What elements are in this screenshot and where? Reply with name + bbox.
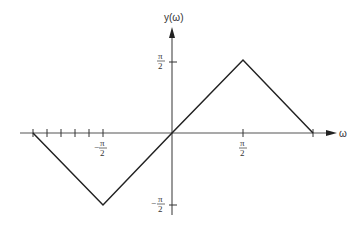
x-axis-arrow-icon xyxy=(326,130,337,136)
svg-text:−: − xyxy=(94,142,99,152)
svg-text:2: 2 xyxy=(100,148,105,158)
svg-text:−: − xyxy=(151,198,156,208)
svg-text:π: π xyxy=(158,51,163,61)
x-tick-label-pi-2: π 2 xyxy=(239,138,247,158)
svg-text:π: π xyxy=(158,194,163,204)
svg-text:2: 2 xyxy=(158,204,163,214)
y-tick-label-pi-2: π 2 xyxy=(157,51,165,71)
y-axis-arrow-icon xyxy=(169,27,175,38)
svg-text:π: π xyxy=(100,138,105,148)
svg-text:2: 2 xyxy=(158,61,163,71)
svg-text:2: 2 xyxy=(240,148,245,158)
y-tick-label-neg-pi-2: − π 2 xyxy=(151,194,165,214)
x-tick-label-neg-pi-2: − π 2 xyxy=(94,138,107,158)
chart: y(ω) ω − π 2 π 2 π 2 − π 2 xyxy=(0,0,364,228)
svg-text:π: π xyxy=(240,138,245,148)
x-axis-label: ω xyxy=(339,128,347,139)
y-axis-label: y(ω) xyxy=(164,12,183,23)
